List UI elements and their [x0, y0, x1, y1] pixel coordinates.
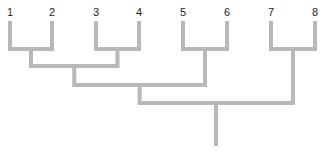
- leaf-label-6: 6: [224, 6, 230, 18]
- branches: [10, 23, 315, 144]
- leaf-labels: 12345678: [7, 6, 318, 18]
- leaf-label-4: 4: [136, 6, 142, 18]
- leaf-label-7: 7: [268, 6, 274, 18]
- leaf-label-8: 8: [312, 6, 318, 18]
- merge-branch-4: [271, 23, 315, 49]
- merge-branch-5: [31, 49, 118, 66]
- leaf-label-5: 5: [180, 6, 186, 18]
- merge-branch-2: [96, 23, 139, 49]
- dendrogram: 12345678: [0, 0, 324, 153]
- merge-branch-3: [183, 23, 227, 49]
- leaf-label-3: 3: [93, 6, 99, 18]
- leaf-label-1: 1: [7, 6, 13, 18]
- leaf-label-2: 2: [49, 6, 55, 18]
- merge-branch-7: [140, 49, 293, 103]
- merge-branch-1: [10, 23, 52, 49]
